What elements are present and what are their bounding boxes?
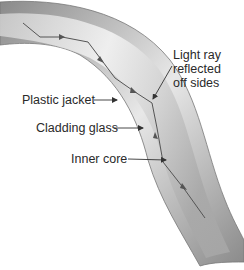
light-ray-label-line1: Light ray xyxy=(173,48,221,62)
fiber-optic-diagram: Light ray reflected off sides Plastic ja… xyxy=(0,0,244,270)
cladding-glass-label: Cladding glass xyxy=(36,121,118,135)
fiber-cable-illustration xyxy=(0,0,244,270)
inner-core-label: Inner core xyxy=(71,152,127,166)
light-ray-label-line2: reflected xyxy=(173,62,221,76)
light-ray-label: Light ray reflected off sides xyxy=(173,48,221,90)
plastic-jacket-label: Plastic jacket xyxy=(22,93,95,107)
light-ray-label-line3: off sides xyxy=(173,76,221,90)
